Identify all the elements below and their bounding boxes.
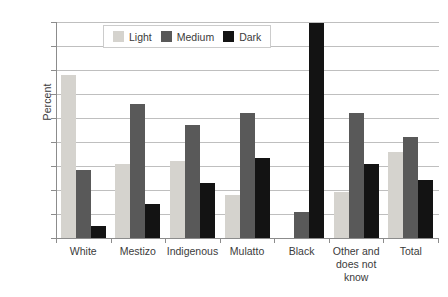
bar-light (334, 192, 349, 238)
x-tick-mark (438, 238, 439, 243)
bar-medium (240, 113, 255, 238)
x-tick-label-line: Mulatto (220, 245, 275, 258)
x-tick-label: Total (383, 245, 438, 284)
bar-light (388, 152, 403, 238)
bar-dark (91, 226, 106, 238)
x-tick-label: Mestizo (111, 245, 166, 284)
x-tick-label: Mulatto (220, 245, 275, 284)
legend-item-medium[interactable]: Medium (161, 31, 214, 43)
bar-dark (309, 23, 324, 238)
legend-item-light[interactable]: Light (113, 31, 152, 43)
bar-medium (403, 137, 418, 238)
x-tick-label: Other anddoes notknow (329, 245, 384, 284)
legend-swatch-icon (113, 31, 124, 42)
bar-dark (418, 180, 433, 238)
gridline-0 (57, 238, 439, 239)
x-tick-label-line: know (329, 271, 384, 284)
legend-label: Dark (239, 31, 261, 43)
x-tick-label-line: Black (274, 245, 329, 258)
legend-label: Light (129, 31, 152, 43)
x-tick-mark (220, 238, 221, 243)
bar-medium (76, 170, 91, 238)
x-tick-label: Indigenous (165, 245, 220, 284)
x-tick-mark (165, 238, 166, 243)
x-tick-mark (111, 238, 112, 243)
bar-group (165, 22, 220, 238)
x-tick-label-line: Total (383, 245, 438, 258)
x-tick-mark (329, 238, 330, 243)
legend-swatch-icon (223, 31, 234, 42)
x-tick-label-line: White (56, 245, 111, 258)
bar-light (225, 195, 240, 238)
x-tick-mark (56, 238, 57, 243)
bar-group (56, 22, 111, 238)
x-tick-label-line: Other and (329, 245, 384, 258)
x-tick-label: White (56, 245, 111, 284)
bar-medium (294, 212, 309, 238)
x-tick-mark (274, 238, 275, 243)
legend-label: Medium (177, 31, 214, 43)
bar-groups (56, 22, 438, 238)
x-tick-label-line: Mestizo (111, 245, 166, 258)
legend-swatch-icon (161, 31, 172, 42)
bar-medium (349, 113, 364, 238)
bar-group (329, 22, 384, 238)
bar-medium (130, 104, 145, 238)
x-axis-labels: WhiteMestizoIndigenousMulattoBlackOther … (56, 245, 438, 284)
x-tick-label-line: Indigenous (165, 245, 220, 258)
bar-light (61, 75, 76, 238)
bar-dark (145, 204, 160, 238)
bar-dark (364, 164, 379, 238)
chart-legend: LightMediumDark (103, 25, 271, 48)
bar-medium (185, 125, 200, 238)
bar-dark (200, 183, 215, 238)
bar-group (220, 22, 275, 238)
x-tick-mark (383, 238, 384, 243)
bar-group (383, 22, 438, 238)
bar-light (170, 161, 185, 238)
x-tick-label: Black (274, 245, 329, 284)
bar-light (115, 164, 130, 238)
bar-dark (255, 158, 270, 238)
legend-item-dark[interactable]: Dark (223, 31, 261, 43)
bar-chart: Percent 0102030405060708090 WhiteMestizo… (0, 0, 448, 297)
bar-group (111, 22, 166, 238)
bar-group (274, 22, 329, 238)
x-tick-label-line: does not (329, 258, 384, 271)
